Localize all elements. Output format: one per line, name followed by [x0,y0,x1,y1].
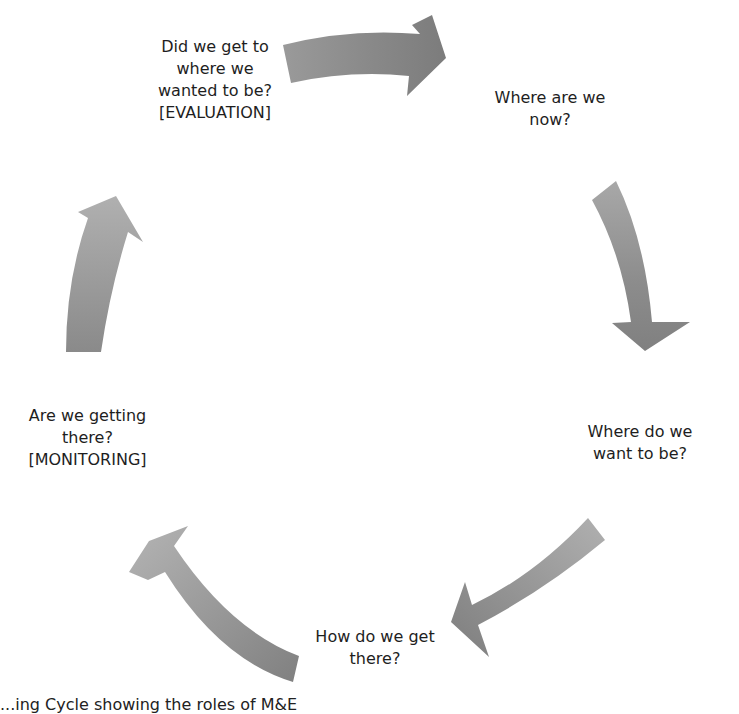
node-text: where we [130,58,300,80]
arrow-mon-to-eval [66,196,143,352]
node-text: there? [0,427,175,449]
node-where-do-we-want-to-be: Where do we want to be? [540,421,739,465]
figure-caption: ...ing Cycle showing the roles of M&E [0,695,297,714]
node-text: want to be? [540,443,739,465]
node-text: there? [290,648,460,670]
arrow-how-to-mon [129,526,299,682]
arrow-now-to-want [592,181,690,351]
node-where-are-we-now: Where are we now? [470,87,630,131]
node-monitoring: Are we getting there? [MONITORING] [0,405,175,471]
node-text: wanted to be? [130,80,300,102]
node-text: Where are we [470,87,630,109]
node-text: now? [470,109,630,131]
node-text: Did we get to [130,36,300,58]
node-how-do-we-get-there: How do we get there? [290,626,460,670]
node-evaluation: Did we get to where we wanted to be? [EV… [130,36,300,124]
arrow-want-to-how [451,518,605,657]
node-text: How do we get [290,626,460,648]
node-text: [MONITORING] [0,449,175,471]
arrow-evaluation-to-now [283,15,446,96]
node-text: Are we getting [0,405,175,427]
node-text: Where do we [540,421,739,443]
node-text: [EVALUATION] [130,102,300,124]
